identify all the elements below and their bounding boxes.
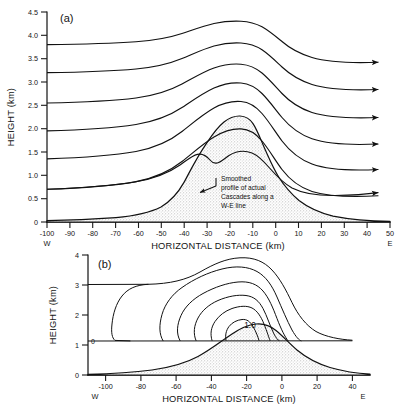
panel-b-xtick--60: -60 bbox=[171, 382, 181, 391]
panel-a-ytick-4-5: 4.5 bbox=[28, 8, 38, 17]
panel-a-east-label: E bbox=[388, 239, 393, 248]
panel-b-terrain bbox=[88, 324, 370, 375]
panel-b-xtick-40: 40 bbox=[348, 382, 356, 391]
panel-b-ytick-1: 1 bbox=[75, 341, 79, 350]
panel-a-annotation-line-2: profile of actual bbox=[221, 184, 266, 192]
figure-container: (a) 0 0.5 1.0 1.5 2.0 2.5 3.0 bbox=[0, 0, 399, 410]
panel-b-contour-label-0: 0 bbox=[91, 338, 95, 345]
panel-a-ytick-3-5: 3.5 bbox=[28, 54, 38, 63]
panel-b-xtick-20: 20 bbox=[313, 382, 321, 391]
panel-a-xtick--80: -80 bbox=[88, 229, 98, 238]
panel-b-y-ticks: 0 1 2 3 4 bbox=[75, 251, 88, 380]
panel-a-xtick--70: -70 bbox=[110, 229, 120, 238]
panel-a-label: (a) bbox=[60, 12, 73, 24]
panel-a-xtick-20: 20 bbox=[317, 229, 325, 238]
panel-a-ytick-1-0: 1.0 bbox=[28, 171, 38, 180]
panel-a: (a) 0 0.5 1.0 1.5 2.0 2.5 3.0 bbox=[6, 8, 394, 252]
panel-a-xtick-10: 10 bbox=[295, 229, 303, 238]
panel-b-label: (b) bbox=[98, 258, 111, 270]
panel-a-ytick-4-0: 4.0 bbox=[28, 31, 38, 40]
panel-b-xtick--100: -100 bbox=[98, 382, 112, 391]
panel-a-streamline-6 bbox=[47, 21, 378, 62]
panel-b-contour-0-upper bbox=[88, 258, 352, 340]
panel-a-x-ticks: -100 -90 -80 -70 -60 -50 -40 -30 -20 - bbox=[40, 222, 394, 238]
panel-b-xtick--80: -80 bbox=[136, 382, 146, 391]
panel-a-xtick--40: -40 bbox=[179, 229, 189, 238]
panel-b-xtick--40: -40 bbox=[206, 382, 216, 391]
panel-b-contours bbox=[88, 258, 352, 341]
panel-a-xtick-0: 0 bbox=[274, 229, 278, 238]
panel-b-xtick-0: 0 bbox=[280, 382, 284, 391]
panel-b-ytick-3: 3 bbox=[75, 281, 79, 290]
panel-a-xtick--100: -100 bbox=[40, 229, 54, 238]
panel-a-streamline-4 bbox=[47, 64, 378, 118]
panel-b-ytick-0: 0 bbox=[75, 371, 79, 380]
panel-a-x-axis-title: HORIZONTAL DISTANCE (km) bbox=[151, 241, 285, 251]
panel-b-xtick--20: -20 bbox=[241, 382, 251, 391]
panel-a-y-ticks: 0 0.5 1.0 1.5 2.0 2.5 3.0 3.5 4.0 4.5 bbox=[28, 8, 47, 227]
figure-svg: (a) 0 0.5 1.0 1.5 2.0 2.5 3.0 bbox=[0, 0, 399, 410]
panel-b-contour-0-2 bbox=[160, 267, 301, 341]
panel-b-ytick-2: 2 bbox=[75, 311, 79, 320]
panel-b-x-axis-title: HORIZONTAL DISTANCE (km) bbox=[162, 394, 296, 404]
panel-a-annotation-line-1: Smoothed bbox=[221, 175, 251, 182]
panel-b-west-label: W bbox=[92, 392, 99, 401]
panel-b-contour-0-windward bbox=[112, 284, 148, 341]
panel-a-xtick--10: -10 bbox=[248, 229, 258, 238]
panel-a-annotation-line-4: W-E line bbox=[221, 202, 246, 209]
panel-a-ytick-2-0: 2.0 bbox=[28, 124, 38, 133]
panel-a-streamline-5 bbox=[47, 43, 378, 90]
panel-b-x-ticks: -100 -80 -60 -40 -20 0 20 40 bbox=[98, 375, 356, 391]
panel-a-y-axis-title: HEIGHT (km) bbox=[6, 88, 16, 146]
panel-a-ytick-0-5: 0.5 bbox=[28, 194, 38, 203]
panel-b: (b) 0 1 2 3 4 -100 -80 bbox=[48, 251, 370, 405]
panel-a-xtick-50: 50 bbox=[386, 229, 394, 238]
panel-b-ytick-4: 4 bbox=[75, 251, 79, 260]
panel-a-xtick--50: -50 bbox=[156, 229, 166, 238]
panel-b-contour-label-1-0: 1.0 bbox=[244, 321, 256, 330]
panel-a-ytick-1-5: 1.5 bbox=[28, 148, 38, 157]
panel-a-ytick-0: 0 bbox=[34, 218, 38, 227]
panel-a-xtick-40: 40 bbox=[363, 229, 371, 238]
panel-a-xtick--60: -60 bbox=[133, 229, 143, 238]
panel-a-annotation-line-3: Cascades along a bbox=[221, 193, 274, 201]
panel-b-y-axis-title: HEIGHT (km) bbox=[48, 286, 58, 344]
panel-a-xtick-30: 30 bbox=[340, 229, 348, 238]
panel-a-west-label: W bbox=[44, 239, 51, 248]
panel-a-xtick--20: -20 bbox=[225, 229, 235, 238]
panel-a-ytick-3-0: 3.0 bbox=[28, 78, 38, 87]
panel-b-east-label: E bbox=[361, 392, 366, 401]
panel-a-xtick--90: -90 bbox=[65, 229, 75, 238]
panel-a-xtick--30: -30 bbox=[202, 229, 212, 238]
panel-a-ytick-2-5: 2.5 bbox=[28, 101, 38, 110]
